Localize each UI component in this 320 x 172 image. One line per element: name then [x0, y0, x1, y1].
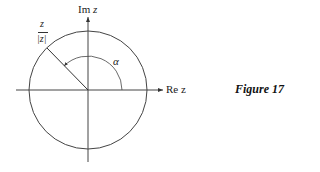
point-label-denominator: |z| [37, 33, 46, 44]
angle-label: α [113, 55, 119, 67]
figure-caption: Figure 17 [235, 82, 284, 97]
im-axis-label: Im z [78, 3, 97, 15]
point-label-numerator: z [40, 18, 44, 29]
radius-vector [47, 48, 88, 90]
re-axis-label: Re z [166, 83, 186, 95]
